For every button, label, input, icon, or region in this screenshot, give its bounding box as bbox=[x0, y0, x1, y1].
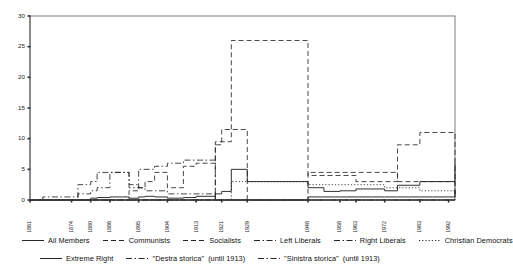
legend-label: "Sinistra storica" bbox=[284, 254, 339, 263]
legend-item[interactable]: All Members bbox=[22, 236, 90, 245]
legend-line-swatch-icon bbox=[40, 255, 62, 262]
line-chart-plot: 051015202530 186118741880188618951904191… bbox=[0, 0, 468, 232]
legend-line-swatch-icon bbox=[419, 237, 441, 244]
data-series-group bbox=[30, 41, 455, 200]
legend-line-swatch-icon bbox=[22, 237, 44, 244]
y-tick-label: 5 bbox=[22, 165, 26, 172]
legend-row-secondary: Extreme Right"Destra storica"(until 1913… bbox=[0, 249, 468, 267]
y-tick-label: 25 bbox=[18, 42, 25, 49]
legend-label: Socialists bbox=[209, 236, 241, 245]
legend-item[interactable]: Right Liberals bbox=[334, 236, 406, 245]
legend-item[interactable]: Communists bbox=[103, 236, 171, 245]
y-tick-label: 0 bbox=[22, 196, 26, 203]
legend-line-swatch-icon bbox=[334, 237, 356, 244]
legend-note: (until 1913) bbox=[343, 254, 380, 263]
legend-line-swatch-icon bbox=[103, 237, 125, 244]
legend-item[interactable]: Christian Democrats bbox=[419, 236, 513, 245]
legend-label: Communists bbox=[129, 236, 171, 245]
legend-label: All Members bbox=[48, 236, 90, 245]
legend-note: (until 1913) bbox=[208, 254, 245, 263]
legend-row-primary: All MembersCommunistsSocialistsLeft Libe… bbox=[0, 231, 468, 249]
y-tick-label: 30 bbox=[18, 12, 25, 19]
legend-line-swatch-icon bbox=[254, 237, 276, 244]
legend-item[interactable]: Extreme Right bbox=[40, 254, 113, 263]
legend-item[interactable]: Left Liberals bbox=[254, 236, 321, 245]
y-tick-label: 10 bbox=[18, 134, 25, 141]
series-line bbox=[30, 129, 455, 200]
legend-label: Extreme Right bbox=[66, 254, 113, 263]
legend-label: "Destra storica" bbox=[152, 254, 204, 263]
x-axis-ticks: 1861187418801886189519041913192119291948… bbox=[26, 199, 451, 232]
y-tick-label: 20 bbox=[18, 73, 25, 80]
series-line bbox=[30, 41, 455, 200]
legend-line-swatch-icon bbox=[258, 255, 280, 262]
y-axis-ticks: 051015202530 bbox=[18, 12, 30, 203]
legend-line-swatch-icon bbox=[126, 255, 148, 262]
legend-label: Right Liberals bbox=[360, 236, 406, 245]
legend-line-swatch-icon bbox=[183, 237, 205, 244]
legend-label: Left Liberals bbox=[280, 236, 321, 245]
legend-item[interactable]: Socialists bbox=[183, 236, 241, 245]
legend-item[interactable]: "Destra storica"(until 1913) bbox=[126, 254, 245, 263]
series-line bbox=[30, 172, 455, 200]
y-tick-label: 15 bbox=[18, 104, 25, 111]
legend-label: Christian Democrats bbox=[445, 236, 513, 245]
legend-item[interactable]: "Sinistra storica"(until 1913) bbox=[258, 254, 380, 263]
chart-legend: All MembersCommunistsSocialistsLeft Libe… bbox=[0, 231, 468, 272]
series-line bbox=[30, 160, 455, 200]
